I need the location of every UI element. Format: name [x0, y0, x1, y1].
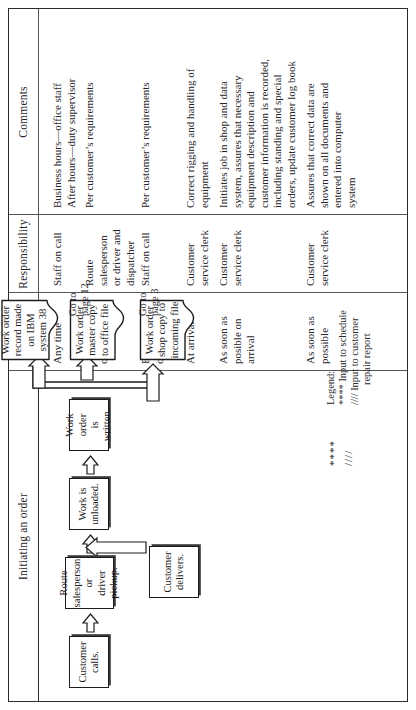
node-line: salesperson or: [71, 557, 96, 610]
legend-entry-repair-report-cont: repair report: [361, 333, 374, 385]
goto-line: page 12: [79, 246, 91, 316]
flow-node-work-unloaded[interactable]: Work is unloaded.: [69, 478, 109, 530]
marker-asterisks: ****: [327, 440, 340, 466]
node-line: Work is: [77, 481, 89, 526]
doc-line: on IBM: [25, 313, 36, 346]
goto-line: Go to: [67, 246, 79, 316]
goto-label-page12: Go to page 12: [67, 246, 92, 316]
flow-node-route-pickup[interactable]: Route salesperson or driver pickup.: [65, 557, 114, 609]
doc-line: shop copy: [156, 314, 167, 357]
flow-node-customer-calls[interactable]: Customer calls.: [69, 636, 109, 688]
goto-line: Go to: [137, 246, 149, 316]
goto-line: page 3: [149, 246, 161, 316]
doc-line: record made: [12, 304, 23, 357]
doc-line: file: [99, 304, 110, 318]
procedure-table: Initiating an order Frequency Responsibi…: [8, 8, 408, 702]
arrow-calls-to-pickup: [81, 613, 101, 633]
flowchart: Customer calls. Route salesperson or dri…: [9, 8, 407, 702]
node-line: Customer: [162, 549, 174, 594]
legend-entry-schedule: **** Input to schedule: [337, 310, 350, 405]
doc-line: to office: [99, 321, 110, 356]
page-sheet: Initiating an order Frequency Responsibi…: [0, 0, 416, 710]
arrow-unloaded-to-workorder: [81, 455, 101, 475]
flow-doc-ibm-record[interactable]: Work order record made on IBM system 38: [1, 299, 59, 361]
goto-label-page3: Go to page 3: [137, 246, 162, 316]
node-line: unloaded.: [89, 481, 101, 526]
node-line: Route: [58, 557, 70, 610]
marker-slashes: ////: [342, 450, 355, 466]
node-line: calls.: [89, 639, 101, 684]
node-line: Customer: [77, 639, 89, 684]
node-line: driver pickup.: [96, 557, 121, 610]
node-line: Work order: [64, 402, 89, 448]
doc-line: system 38: [37, 309, 48, 352]
doc-line: Work order: [0, 306, 11, 354]
doc-line: file: [169, 302, 180, 316]
doc-label: Work order record made on IBM system 38: [1, 299, 59, 361]
rotated-page-container: Initiating an order Frequency Responsibi…: [0, 0, 416, 710]
legend-entry-repair-report: //// Input to customer: [349, 318, 362, 405]
flow-node-work-order-written[interactable]: Work order is written.: [69, 399, 109, 451]
flow-node-customer-delivers[interactable]: Customer delivers.: [149, 546, 199, 598]
node-line: delivers.: [174, 549, 186, 594]
legend-title: Legend:: [325, 371, 338, 405]
node-line: is written.: [89, 402, 114, 448]
